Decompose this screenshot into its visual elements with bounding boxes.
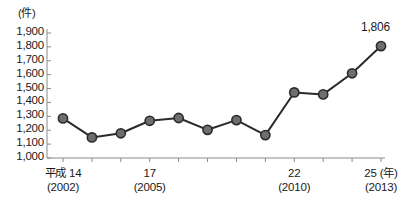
- data-point-group: [58, 41, 385, 142]
- data-point: [347, 69, 356, 78]
- data-point: [58, 114, 67, 123]
- data-point: [87, 133, 96, 142]
- chart-axes: [47, 29, 385, 158]
- data-point: [174, 113, 183, 122]
- x-axis-year-label: (2002): [18, 180, 108, 194]
- y-axis-ticks: [47, 33, 51, 158]
- data-series-line: [63, 46, 381, 137]
- x-axis-tick-label: 25(年)(2013): [336, 166, 400, 194]
- x-axis-year-label: (2010): [249, 180, 339, 194]
- data-point: [145, 116, 154, 125]
- data-point: [376, 41, 385, 50]
- x-axis-era-label: 25(年): [336, 166, 400, 180]
- data-point-value-label: 1,806: [361, 20, 390, 34]
- data-point: [261, 130, 270, 139]
- x-axis-ticks: [63, 158, 381, 162]
- x-axis-year-label: (2013): [336, 180, 400, 194]
- x-axis-era-label: 22: [249, 166, 339, 180]
- x-axis-unit-label: (年): [380, 167, 398, 179]
- data-point: [232, 115, 241, 124]
- line-chart: (件) 1,9001,8001,7001,6001,5001,4001,3001…: [0, 0, 400, 207]
- x-axis-era-label: 17: [105, 166, 195, 180]
- data-point: [319, 90, 328, 99]
- data-point: [116, 129, 125, 138]
- x-axis-tick-label: 平成 14(2002): [18, 166, 108, 194]
- x-axis-tick-label: 22(2010): [249, 166, 339, 194]
- x-axis-year-label: (2005): [105, 180, 195, 194]
- data-point: [290, 88, 299, 97]
- x-axis-tick-label: 17(2005): [105, 166, 195, 194]
- x-axis-era-label: 平成 14: [18, 166, 108, 180]
- data-point: [203, 125, 212, 134]
